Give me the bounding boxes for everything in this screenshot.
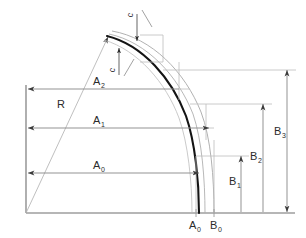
label-a1: A 1	[93, 114, 105, 128]
label-baseline-b0-letter: B	[210, 219, 217, 231]
label-a2-subscript: 2	[101, 82, 105, 89]
label-group: R A 2 A 1 A 0 B 1 B	[57, 11, 286, 233]
label-a0: A 0	[93, 159, 105, 173]
dimension-drawing-canvas: R A 2 A 1 A 0 B 1 B	[0, 0, 306, 238]
label-b1: B 1	[229, 175, 241, 189]
label-b2: B 2	[250, 150, 262, 164]
step-construction-group	[140, 35, 296, 213]
label-a1-subscript: 1	[101, 121, 105, 128]
label-b3: B 3	[274, 125, 286, 139]
label-radius: R	[57, 98, 65, 110]
label-b3-letter: B	[274, 125, 281, 137]
label-a0-letter: A	[93, 159, 101, 171]
profile-main-arc	[107, 36, 199, 213]
label-a2-letter: A	[93, 75, 101, 87]
thickness-leader-upper-slash	[142, 10, 152, 27]
label-b3-subscript: 3	[282, 132, 286, 139]
label-baseline-a0: A 0	[189, 219, 201, 233]
horizontal-dimensions-group	[28, 89, 209, 173]
label-b1-letter: B	[229, 175, 236, 187]
label-b2-subscript: 2	[258, 157, 262, 164]
label-baseline-b0: B 0	[210, 219, 222, 233]
technical-diagram-container: R A 2 A 1 A 0 B 1 B	[0, 0, 306, 238]
label-a0-subscript: 0	[101, 166, 105, 173]
label-thickness-upper: c	[124, 11, 135, 19]
vertical-dimensions-group	[241, 70, 287, 212]
label-thickness-lower: c	[106, 66, 117, 74]
profile-middle-offset-arc	[109, 34, 205, 213]
label-baseline-b0-subscript: 0	[218, 226, 222, 233]
label-b1-subscript: 1	[237, 182, 241, 189]
thickness-leader-lower-slash	[124, 59, 134, 76]
label-a2: A 2	[93, 75, 105, 89]
label-b2-letter: B	[250, 150, 257, 162]
label-baseline-a0-letter: A	[189, 219, 197, 231]
label-baseline-a0-subscript: 0	[197, 226, 201, 233]
label-a1-letter: A	[93, 114, 101, 126]
